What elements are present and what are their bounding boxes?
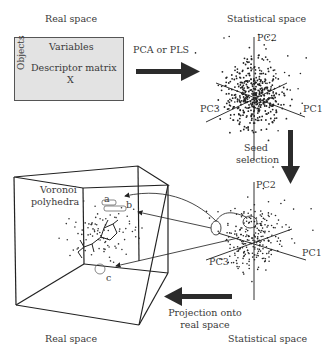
voronoi-boxes [95,200,126,274]
seed-selection-arrow [281,130,300,184]
diagram-root: Real space Variables Objects Descriptor … [0,0,333,354]
pca-arrow [136,62,200,81]
projection-arrow [164,287,232,306]
bottom-scatter-points [206,166,314,282]
seed-callouts [116,193,257,266]
top-scatter-points [195,34,307,142]
bottom-scatter-axes [206,182,306,300]
diagram-graphics [0,0,333,354]
real-space-cube [14,166,168,325]
cube-points [58,200,143,263]
